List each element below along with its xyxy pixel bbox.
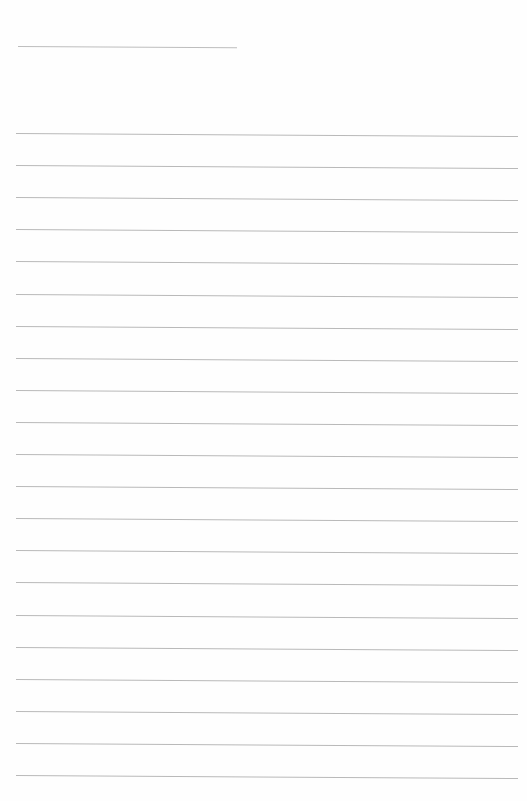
ruled-line (16, 133, 518, 137)
ruled-line (16, 647, 518, 651)
ruled-line (16, 229, 518, 233)
lined-paper-page (0, 0, 527, 801)
ruled-line (16, 486, 518, 490)
ruled-line (16, 358, 518, 362)
header-line (18, 46, 237, 48)
ruled-line (16, 582, 518, 586)
ruled-line (16, 165, 518, 169)
ruled-line (16, 261, 518, 265)
ruled-line (16, 294, 518, 298)
ruled-line (16, 743, 518, 747)
ruled-line (16, 197, 518, 201)
ruled-line (16, 454, 518, 458)
ruled-line (16, 615, 518, 619)
ruled-line (16, 422, 518, 426)
ruled-line (16, 711, 518, 715)
ruled-line (16, 518, 518, 522)
ruled-line (16, 679, 518, 683)
ruled-line (16, 550, 518, 554)
ruled-line (16, 390, 518, 394)
ruled-line (16, 775, 518, 779)
ruled-line (16, 326, 518, 330)
